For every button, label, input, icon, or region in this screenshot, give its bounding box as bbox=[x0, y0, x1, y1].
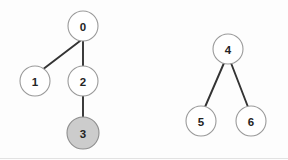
graph-svg: 0123456 bbox=[0, 0, 288, 160]
node-label-0: 0 bbox=[80, 21, 86, 33]
node-label-3: 3 bbox=[80, 128, 86, 140]
node-3[interactable]: 3 bbox=[67, 117, 99, 149]
edge-4-5 bbox=[205, 63, 224, 107]
node-2[interactable]: 2 bbox=[68, 66, 98, 96]
node-label-6: 6 bbox=[248, 116, 254, 128]
node-6[interactable]: 6 bbox=[236, 106, 266, 136]
node-label-2: 2 bbox=[80, 76, 86, 88]
node-label-5: 5 bbox=[198, 116, 205, 128]
edge-4-6 bbox=[231, 63, 248, 107]
diagram-canvas: 0123456 bbox=[0, 0, 288, 160]
node-4[interactable]: 4 bbox=[213, 34, 243, 64]
node-1[interactable]: 1 bbox=[20, 66, 50, 96]
nodes-layer: 0123456 bbox=[20, 11, 266, 149]
node-5[interactable]: 5 bbox=[186, 106, 216, 136]
bottom-divider bbox=[0, 158, 288, 159]
node-0[interactable]: 0 bbox=[68, 11, 98, 41]
edge-0-1 bbox=[42, 41, 80, 70]
node-label-4: 4 bbox=[225, 44, 232, 56]
node-label-1: 1 bbox=[32, 76, 39, 88]
